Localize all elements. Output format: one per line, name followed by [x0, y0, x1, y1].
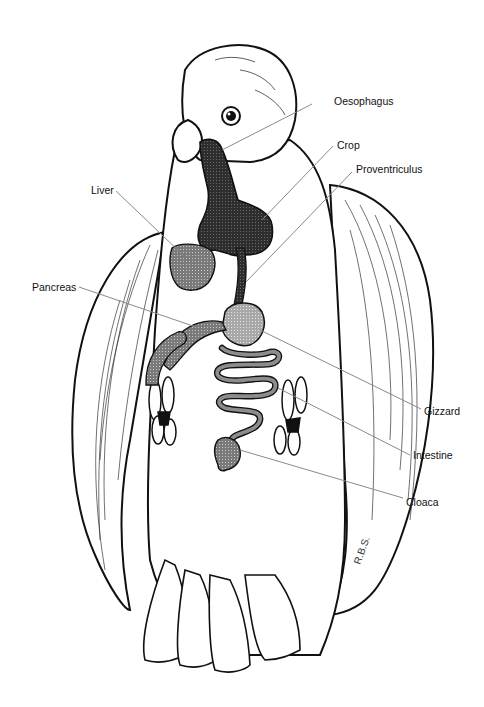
- label-gizzard: Gizzard: [424, 406, 460, 417]
- label-oesophagus: Oesophagus: [334, 96, 394, 107]
- label-liver: Liver: [91, 185, 114, 196]
- head: [173, 45, 297, 162]
- label-pancreas: Pancreas: [32, 282, 76, 293]
- right-wing: [330, 185, 433, 615]
- label-proventriculus: Proventriculus: [356, 164, 423, 175]
- beak: [173, 120, 202, 162]
- digestive-system-diagram: R.B.S. Oesophagus Crop Proventriculus Li…: [0, 0, 484, 707]
- label-intestine: Intestine: [413, 450, 453, 461]
- parrot-illustration: R.B.S.: [0, 0, 484, 707]
- label-cloaca: Cloaca: [406, 497, 439, 508]
- label-crop: Crop: [337, 140, 360, 151]
- gizzard-organ: [222, 303, 264, 346]
- liver-organ: [170, 244, 215, 290]
